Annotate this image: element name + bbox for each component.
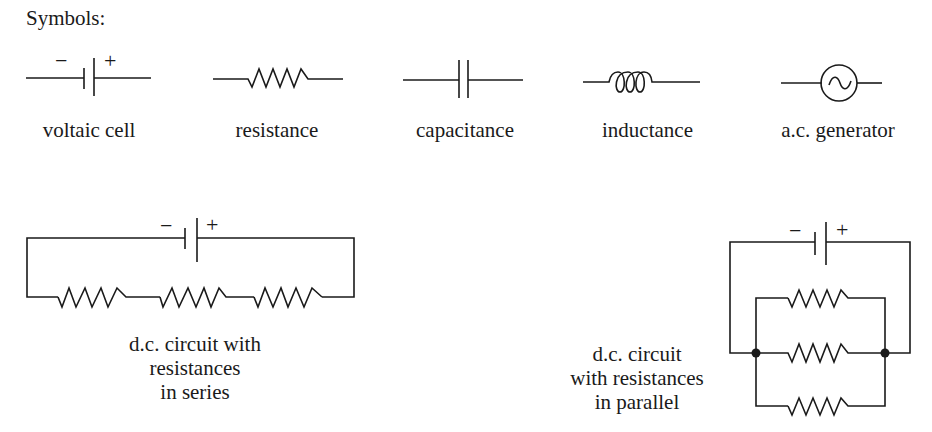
- voltaic-cell-plus-sign: +: [104, 48, 116, 74]
- series-resistor-3: [254, 288, 322, 307]
- junction-dot-left: [752, 349, 761, 358]
- capacitance-symbol: [403, 60, 523, 98]
- ac-generator-symbol: [781, 65, 882, 101]
- series-resistor-1: [58, 288, 160, 307]
- parallel-resistor-bottom: [788, 398, 854, 415]
- series-minus-sign: −: [160, 213, 172, 239]
- parallel-caption-line-2: with resistances: [552, 366, 722, 390]
- voltaic-cell-minus-sign: −: [55, 48, 67, 74]
- parallel-circuit: [730, 222, 910, 415]
- parallel-plus-sign: +: [836, 217, 848, 243]
- voltaic-cell-label: voltaic cell: [34, 118, 144, 143]
- series-circuit: [27, 218, 354, 307]
- parallel-caption-line-3: in parallel: [552, 390, 722, 414]
- parallel-minus-sign: −: [789, 218, 801, 244]
- series-caption-line-1: d.c. circuit with: [100, 332, 290, 356]
- series-caption-line-2: resistances: [100, 356, 290, 380]
- series-resistor-2: [160, 288, 254, 307]
- junction-dot-right: [881, 349, 890, 358]
- capacitance-label: capacitance: [405, 118, 525, 143]
- series-plus-sign: +: [206, 212, 218, 238]
- resistance-symbol: [213, 69, 343, 87]
- series-circuit-caption: d.c. circuit with resistances in series: [100, 332, 290, 404]
- parallel-resistor-middle: [756, 344, 885, 362]
- parallel-resistor-top: [788, 290, 854, 307]
- inductance-label: inductance: [590, 118, 705, 143]
- inductance-symbol: [583, 72, 700, 92]
- parallel-circuit-caption: d.c. circuit with resistances in paralle…: [552, 342, 722, 414]
- voltaic-cell-symbol: [26, 58, 151, 96]
- resistance-label: resistance: [222, 118, 332, 143]
- parallel-caption-line-1: d.c. circuit: [552, 342, 722, 366]
- ac-generator-label: a.c. generator: [758, 118, 918, 143]
- series-caption-line-3: in series: [100, 380, 290, 404]
